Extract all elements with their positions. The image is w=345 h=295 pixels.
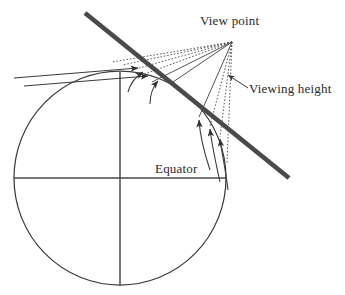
viewing-height-pointer (228, 75, 248, 88)
surface-arrow-2 (150, 81, 158, 104)
sight-ray-group-dotted (112, 42, 232, 163)
surface-arrow-5 (220, 139, 228, 190)
surface-arrow-1 (128, 72, 143, 92)
diagram-canvas: View point Viewing height Equator (0, 0, 345, 295)
grazing-ray-2 (24, 76, 148, 86)
label-viewing-height: Viewing height (249, 81, 332, 97)
surface-arrow-3 (199, 120, 210, 170)
label-view-point: View point (200, 13, 259, 29)
label-equator: Equator (155, 161, 198, 177)
diagram-svg (0, 0, 345, 295)
